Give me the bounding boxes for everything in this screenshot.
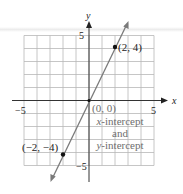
y-axis-label: y bbox=[86, 10, 90, 21]
y-min-tick-label: −5 bbox=[76, 161, 87, 172]
annotation-line-1: x-intercept bbox=[92, 115, 148, 127]
coordinate-plane bbox=[0, 0, 183, 194]
point-2-4 bbox=[113, 45, 117, 49]
point-neg2-neg4 bbox=[61, 152, 65, 156]
line-arrow-lower-icon bbox=[50, 174, 55, 182]
line-arrow-upper-icon bbox=[123, 21, 128, 29]
point-label-2-4: (2, 4) bbox=[118, 42, 142, 53]
x-min-tick-label: −5 bbox=[15, 105, 26, 116]
x-axis-label: x bbox=[172, 95, 176, 106]
x-max-tick-label: 5 bbox=[151, 105, 156, 116]
y-max-tick-label: 5 bbox=[79, 30, 84, 41]
intercept-annotation: x-intercept and y-intercept bbox=[92, 115, 148, 151]
point-label-origin: (0, 0) bbox=[92, 103, 116, 114]
y-axis-arrow-icon bbox=[86, 21, 92, 28]
annotation-line-3: y-intercept bbox=[92, 139, 148, 151]
annotation-line-2: and bbox=[92, 127, 148, 139]
x-axis-arrow-icon bbox=[161, 98, 168, 104]
point-0-0 bbox=[87, 99, 90, 102]
point-label-neg2-neg4: (−2, −4) bbox=[22, 142, 58, 153]
